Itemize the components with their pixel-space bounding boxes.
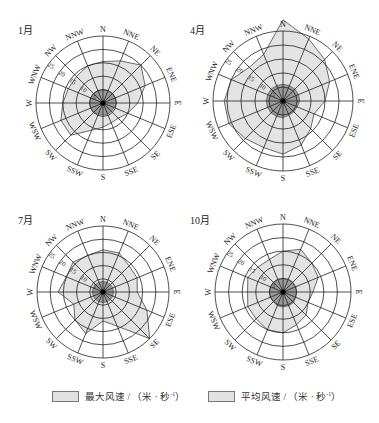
wind-rose-3: NNNENEENEEESESESSESSSWSWWSWWWNWNWNNW5101… — [26, 215, 181, 370]
direction-label: NNW — [243, 22, 265, 38]
direction-label: ESE — [345, 312, 359, 329]
center-dot — [100, 100, 105, 105]
direction-label: N — [100, 25, 106, 34]
legend-label-max: 最大风速 / （米 · 秒-1） — [85, 389, 185, 403]
wind-rose-charts: NNNENEENEEESESESSESSSWSWWSWWWNWNWNNW5101… — [0, 0, 379, 380]
direction-label: E — [173, 101, 182, 106]
legend: 最大风速 / （米 · 秒-1） 平均风速 / （米 · 秒-1） — [0, 388, 379, 404]
direction-label: ESE — [165, 123, 179, 140]
direction-label: N — [280, 20, 286, 29]
radial-tick-label: 25 — [226, 249, 235, 258]
direction-label: N — [280, 213, 286, 222]
legend-label-avg: 平均风速 / （米 · 秒-1） — [241, 389, 341, 403]
direction-label: S — [101, 173, 105, 182]
panel-label-oct: 10月 — [190, 212, 210, 227]
wind-rose-2: NNNENEENEEESESESSESSSWSWWSWWWNWNWNNW5101… — [202, 20, 365, 183]
direction-label: E — [356, 99, 365, 104]
wind-rose-4: NNNENEENEEESESESSESSSWSWWSWWWNWNWNNW5101… — [204, 213, 363, 372]
direction-label: W — [25, 99, 34, 107]
direction-label: SE — [149, 149, 162, 162]
legend-item-avg: 平均风速 / （米 · 秒-1） — [208, 388, 341, 404]
direction-label: SSE — [304, 165, 320, 179]
direction-label: NNW — [65, 217, 87, 233]
center-dot — [280, 289, 285, 294]
radial-tick-label: 20 — [57, 69, 66, 78]
radial-tick-label: 25 — [224, 57, 233, 66]
direction-label: S — [281, 363, 285, 372]
direction-label: WNW — [26, 63, 42, 86]
direction-label: SE — [330, 338, 343, 351]
direction-label: WSW — [206, 310, 222, 332]
center-dot — [280, 98, 285, 103]
direction-label: W — [202, 97, 211, 105]
radial-tick-label: 20 — [237, 257, 246, 266]
direction-label: NNW — [64, 27, 86, 43]
direction-label: SSE — [304, 354, 320, 368]
direction-label: SE — [331, 149, 344, 162]
legend-item-max: 最大风速 / （米 · 秒-1） — [52, 388, 185, 404]
direction-label: W — [26, 288, 35, 296]
direction-label: W — [204, 288, 213, 296]
center-dot — [100, 289, 105, 294]
direction-label: WNW — [206, 252, 222, 275]
direction-label: SSE — [123, 165, 139, 179]
radial-tick-label: 25 — [47, 250, 56, 259]
direction-label: NNW — [244, 215, 266, 231]
legend-swatch-avg — [208, 391, 235, 402]
direction-label: N — [100, 215, 106, 224]
legend-swatch-max — [52, 391, 79, 402]
direction-label: WSW — [28, 309, 44, 331]
radial-tick-label: 20 — [58, 258, 67, 267]
panel-label-apr: 4月 — [190, 22, 205, 37]
wind-rose-1: NNNENEENEEESESESSESSSWSWWSWWWNWNWNNW5101… — [25, 25, 182, 182]
direction-label: E — [354, 290, 363, 295]
direction-label: SSE — [123, 353, 139, 367]
panel-label-jan: 1月 — [18, 22, 33, 37]
panel-label-jul: 7月 — [18, 212, 33, 227]
direction-label: WNW — [204, 60, 220, 83]
direction-label: S — [101, 361, 105, 370]
radial-tick-label: 25 — [47, 61, 56, 70]
direction-label: WSW — [27, 121, 43, 143]
direction-label: S — [281, 174, 285, 183]
direction-label: WNW — [27, 252, 43, 275]
direction-label: E — [172, 290, 181, 295]
direction-label: WSW — [204, 120, 220, 142]
